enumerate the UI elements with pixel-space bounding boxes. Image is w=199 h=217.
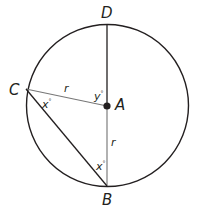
label-D: D (101, 4, 113, 22)
center-point-A (103, 102, 110, 109)
label-A: A (114, 96, 125, 114)
angle-label-B: x° (95, 159, 106, 173)
angle-label-A: y° (93, 89, 104, 103)
segment-label-AB: r (111, 136, 117, 149)
angle-label-C: x° (41, 97, 52, 111)
label-C: C (9, 81, 20, 99)
segment-label-CA: r (64, 82, 70, 95)
circle-diagram: D C A B r r x° y° x° (0, 0, 199, 217)
label-B: B (102, 191, 112, 209)
